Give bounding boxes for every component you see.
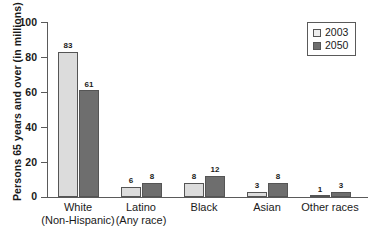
bar-label-white-2003: 83 bbox=[55, 42, 81, 50]
bar-black-2003 bbox=[184, 183, 204, 197]
legend-label-2050: 2050 bbox=[325, 39, 348, 52]
bar-black-2050 bbox=[205, 176, 225, 197]
legend: 2003 2050 bbox=[307, 22, 356, 56]
bar-latino-2050 bbox=[142, 183, 162, 197]
bar-asian-2050 bbox=[268, 183, 288, 197]
bar-other-races-2003 bbox=[310, 195, 330, 197]
bar-white-2003 bbox=[58, 52, 78, 197]
bar-label-black-2003: 8 bbox=[181, 173, 207, 181]
bar-label-latino-2050: 8 bbox=[139, 173, 165, 181]
bar-latino-2003 bbox=[121, 187, 141, 198]
bar-asian-2003 bbox=[247, 192, 267, 197]
legend-swatch-2050-icon bbox=[313, 42, 321, 50]
y-tick-label-0: 0 bbox=[3, 191, 37, 202]
bar-group-black: 8 12 bbox=[184, 22, 225, 197]
bar-group-white: 83 61 bbox=[58, 22, 99, 197]
legend-item-2003: 2003 bbox=[313, 26, 348, 39]
legend-swatch-2003-icon bbox=[313, 29, 321, 37]
bar-label-other-races-2050: 3 bbox=[328, 182, 354, 190]
legend-label-2003: 2003 bbox=[325, 26, 348, 39]
y-tick-label-20: 20 bbox=[3, 157, 37, 168]
bar-group-asian: 3 8 bbox=[247, 22, 288, 197]
bar-group-latino: 6 8 bbox=[121, 22, 162, 197]
legend-item-2050: 2050 bbox=[313, 39, 348, 52]
bar-white-2050 bbox=[79, 90, 99, 197]
x-axis-label-latino-line2: (Any race) bbox=[85, 214, 197, 227]
bar-chart: Persons 65 years and over (in millions) … bbox=[0, 0, 386, 248]
bar-label-asian-2050: 8 bbox=[265, 173, 291, 181]
y-tick-label-40: 40 bbox=[3, 122, 37, 133]
x-axis-label-other-races-line1: Other races bbox=[274, 201, 386, 214]
y-tick-label-80: 80 bbox=[3, 52, 37, 63]
bar-label-asian-2003: 3 bbox=[244, 182, 270, 190]
y-tick-label-100: 100 bbox=[3, 17, 37, 28]
bar-label-white-2050: 61 bbox=[76, 81, 102, 89]
y-tick-label-60: 60 bbox=[3, 87, 37, 98]
bar-other-races-2050 bbox=[331, 192, 351, 197]
bar-label-black-2050: 12 bbox=[202, 166, 228, 174]
x-axis-label-other-races: Other races bbox=[274, 201, 386, 214]
y-axis-title: Persons 65 years and over (in millions) bbox=[11, 11, 23, 201]
